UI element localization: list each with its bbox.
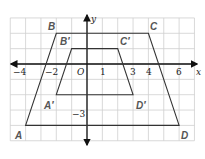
x-tick-label: −4	[13, 67, 27, 77]
vertex-label-d-prime: D′	[136, 100, 146, 111]
vertex-label-c-prime: C′	[120, 36, 130, 47]
vertex-label-c: C	[150, 21, 158, 32]
vertex-label-a-prime: A′	[43, 100, 54, 111]
x-tick-label: 1	[100, 67, 106, 77]
origin-label: O	[77, 67, 85, 77]
vertex-label-b: B	[48, 21, 55, 32]
x-tick-label: 6	[176, 67, 182, 77]
x-tick-label: −2	[45, 67, 58, 77]
vertex-label-a: A	[14, 130, 22, 141]
trapezoid-abcd-prime	[56, 49, 133, 95]
x-tick-label: 3	[130, 67, 136, 77]
x-axis-label: x	[196, 67, 201, 77]
y-axis-label: y	[90, 14, 97, 24]
y-tick-label: −3	[72, 109, 86, 119]
vertex-label-b-prime: B′	[60, 36, 70, 47]
x-tick-label: 4	[146, 67, 152, 77]
grid	[10, 18, 194, 141]
coordinate-plane-diagram: x y O −4 −2 1 3 4 6 −3 A B C D A′ B′ C′ …	[0, 0, 205, 159]
vertex-label-d: D	[181, 130, 188, 141]
